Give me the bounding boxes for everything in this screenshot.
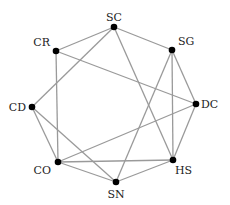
- edge-sg-hs: [172, 50, 173, 160]
- edge-sg-sn: [116, 50, 172, 182]
- graph-labels: SCSGDCHSSNCOCDCR: [9, 11, 219, 201]
- node-label-co: CO: [34, 164, 51, 177]
- node-label-sc: SC: [106, 11, 122, 24]
- edge-co-sn: [58, 162, 116, 182]
- edge-cd-co: [32, 107, 58, 162]
- node-label-dc: DC: [201, 98, 218, 111]
- edge-co-hs: [58, 160, 173, 162]
- edge-cr-dc: [56, 51, 196, 104]
- node-sn: [113, 179, 120, 186]
- node-label-hs: HS: [175, 164, 192, 177]
- node-sc: [111, 24, 118, 31]
- network-graph: SCSGDCHSSNCOCDCR: [0, 0, 230, 205]
- node-co: [55, 159, 62, 166]
- node-hs: [170, 157, 177, 164]
- node-label-cr: CR: [33, 36, 50, 49]
- edge-sc-cr: [56, 27, 114, 51]
- node-cr: [53, 48, 60, 55]
- node-label-cd: CD: [9, 101, 26, 114]
- node-dc: [193, 101, 200, 108]
- edge-cr-co: [56, 51, 58, 162]
- node-sg: [169, 47, 176, 54]
- node-cd: [29, 104, 36, 111]
- node-label-sg: SG: [178, 35, 194, 48]
- node-label-sn: SN: [107, 188, 125, 201]
